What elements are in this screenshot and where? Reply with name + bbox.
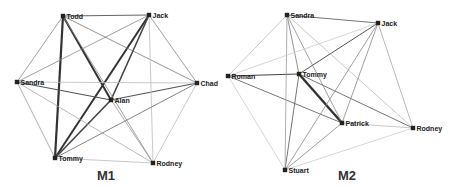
edge-jack-patrick <box>342 23 378 123</box>
node-marker-icon <box>411 126 415 130</box>
node-marker-icon <box>109 98 113 102</box>
node-label: Stuart <box>289 167 310 174</box>
edge-todd-tommy <box>55 16 63 158</box>
node-jack: Jack <box>147 12 168 19</box>
edge-sandra-patrick <box>287 15 342 123</box>
node-marker-icon <box>226 74 230 78</box>
panel-m1: ToddJackSandraChadAlanTommyRodney M1 <box>15 12 218 184</box>
node-marker-icon <box>53 156 57 160</box>
node-label: Tommy <box>59 155 83 163</box>
panel-label-m2: M2 <box>338 168 356 183</box>
edge-jack-stuart <box>285 23 378 170</box>
edge-sandra-stuart <box>285 15 287 170</box>
node-marker-icon <box>151 161 155 165</box>
edge-jack-roman <box>228 23 378 76</box>
node-marker-icon <box>195 81 199 85</box>
edge-stuart-rodney <box>285 128 413 170</box>
panel-m2: SandraJackRomanTommyPatrickRodneyStuart … <box>226 12 442 184</box>
node-label: Sandra <box>21 79 45 86</box>
node-patrick: Patrick <box>340 120 369 127</box>
edge-sandra-roman <box>228 15 287 76</box>
panel-label-m1: M1 <box>97 168 115 183</box>
edge-roman-stuart <box>228 76 285 170</box>
network-diagram: ToddJackSandraChadAlanTommyRodney M1 San… <box>0 0 453 187</box>
node-label: Tommy <box>303 71 327 79</box>
node-label: Rodney <box>417 125 443 133</box>
node-label: Chad <box>201 80 219 87</box>
node-marker-icon <box>61 14 65 18</box>
node-label: Jack <box>153 12 169 19</box>
edge-tommy-stuart <box>285 74 299 170</box>
node-chad: Chad <box>195 80 218 87</box>
edge-roman-patrick <box>228 76 342 123</box>
edge-patrick-stuart <box>285 123 342 170</box>
node-rodney: Rodney <box>151 160 182 168</box>
node-marker-icon <box>297 72 301 76</box>
edge-jack-rodney <box>149 15 153 163</box>
node-label: Roman <box>232 73 256 80</box>
node-rodney: Rodney <box>411 125 442 133</box>
edge-alan-tommy <box>55 100 111 158</box>
edge-jack-chad <box>149 15 197 83</box>
edge-jack-sandra <box>17 15 149 82</box>
edge-jack-alan <box>111 15 149 100</box>
edge-tommy-jack <box>299 23 378 74</box>
m2-edges <box>228 15 413 170</box>
node-marker-icon <box>376 21 380 25</box>
node-marker-icon <box>283 168 287 172</box>
node-marker-icon <box>340 121 344 125</box>
node-label: Patrick <box>346 120 369 127</box>
m1-edges <box>17 15 197 163</box>
node-label: Jack <box>382 20 398 27</box>
node-label: Todd <box>67 13 84 20</box>
node-marker-icon <box>147 13 151 17</box>
node-label: Sandra <box>291 12 315 19</box>
node-marker-icon <box>15 80 19 84</box>
edge-todd-alan <box>63 16 111 100</box>
node-marker-icon <box>285 13 289 17</box>
node-label: Alan <box>115 97 130 104</box>
edge-todd-sandra <box>17 16 63 82</box>
node-label: Rodney <box>157 160 183 168</box>
